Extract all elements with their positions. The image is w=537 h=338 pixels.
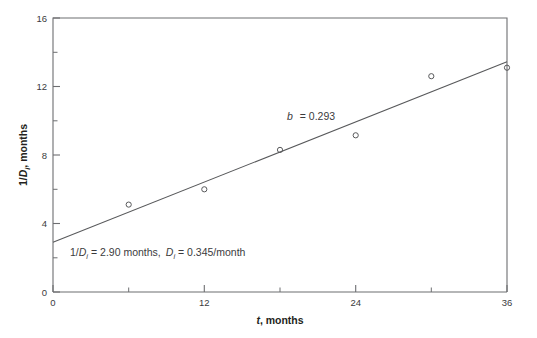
svg-text:1/Di= 2.90 months,Di= 0.345/mo: 1/Di= 2.90 months,Di= 0.345/month [70,246,246,261]
y-axis-major-ticks [53,18,60,292]
svg-text:b = 0.293: b = 0.293 [287,110,335,122]
data-point [202,187,207,192]
data-point [429,74,434,79]
data-markers [126,65,510,207]
slope-symbol: b [287,110,293,122]
svg-text:t, months: t, months [256,314,303,326]
x-axis-minor-ticks [129,288,432,293]
slope-value: = 0.293 [300,110,335,122]
svg-text:1/Di, months: 1/Di, months [17,124,32,186]
y-tick-label-12: 12 [36,81,47,92]
intercept-subscript-2: i [173,252,175,261]
y-axis-title-prefix: 1/ [17,177,29,186]
intercept-subscript-1: i [86,252,88,261]
y-axis-title-unit: , months [17,124,29,168]
slope-annotation: b = 0.293 [287,110,335,122]
intercept-annotation: 1/Di= 2.90 months,Di= 0.345/month [70,246,246,261]
y-tick-label-4: 4 [42,218,47,229]
data-point [126,202,131,207]
x-tick-label-0: 0 [50,297,55,308]
y-axis-title: 1/Di, months [17,124,32,186]
x-axis-title-unit: , months [260,314,304,326]
x-tick-label-24: 24 [350,297,361,308]
intercept-value-2: = 0.345/month [178,246,246,258]
x-tick-label-36: 36 [502,297,513,308]
y-tick-labels: 0 4 8 12 16 [36,13,47,298]
y-tick-label-8: 8 [42,150,47,161]
y-tick-label-16: 16 [36,13,47,24]
data-point [353,133,358,138]
intercept-prefix: 1/ [70,246,79,258]
x-tick-label-12: 12 [199,297,210,308]
x-axis-title: t, months [256,314,303,326]
chart-figure: 0 4 8 12 16 0 12 24 36 b = 0 [0,0,537,338]
intercept-value-1: = 2.90 months, [91,246,161,258]
x-tick-labels: 0 12 24 36 [50,297,512,308]
scatter-plot-svg: 0 4 8 12 16 0 12 24 36 b = 0 [0,0,537,338]
y-tick-label-0: 0 [42,287,47,298]
